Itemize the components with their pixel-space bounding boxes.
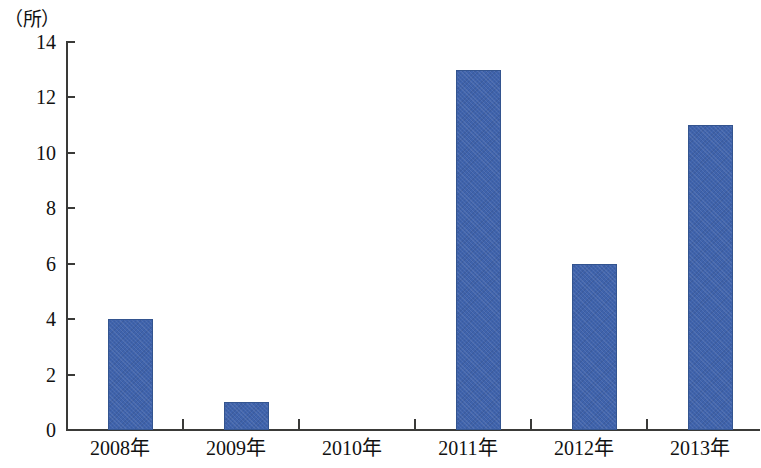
- y-tick-label: 0: [10, 420, 56, 440]
- bar-2009年: [224, 402, 269, 430]
- x-category-label: 2009年: [178, 436, 294, 460]
- y-tick-label: 12: [10, 87, 56, 107]
- x-category-label: 2010年: [294, 436, 410, 460]
- x-category-label: 2013年: [642, 436, 758, 460]
- bar-2008年: [108, 319, 153, 430]
- y-tick-label: 14: [10, 32, 56, 52]
- y-tick-label: 10: [10, 143, 56, 163]
- plot-area: [66, 42, 760, 430]
- y-tick-label: 4: [10, 309, 56, 329]
- bar-2012年: [572, 264, 617, 430]
- y-axis-unit-label: （所）: [4, 9, 60, 31]
- bar-2011年: [456, 70, 501, 430]
- y-tick-label: 8: [10, 198, 56, 218]
- y-tick-label: 2: [10, 365, 56, 385]
- bar-2013年: [688, 125, 733, 430]
- x-category-label: 2008年: [62, 436, 178, 460]
- x-category-label: 2011年: [410, 436, 526, 460]
- bar-chart: （所） 02468101214 2008年2009年2010年2011年2012…: [0, 0, 761, 468]
- y-tick-label: 6: [10, 254, 56, 274]
- x-category-label: 2012年: [526, 436, 642, 460]
